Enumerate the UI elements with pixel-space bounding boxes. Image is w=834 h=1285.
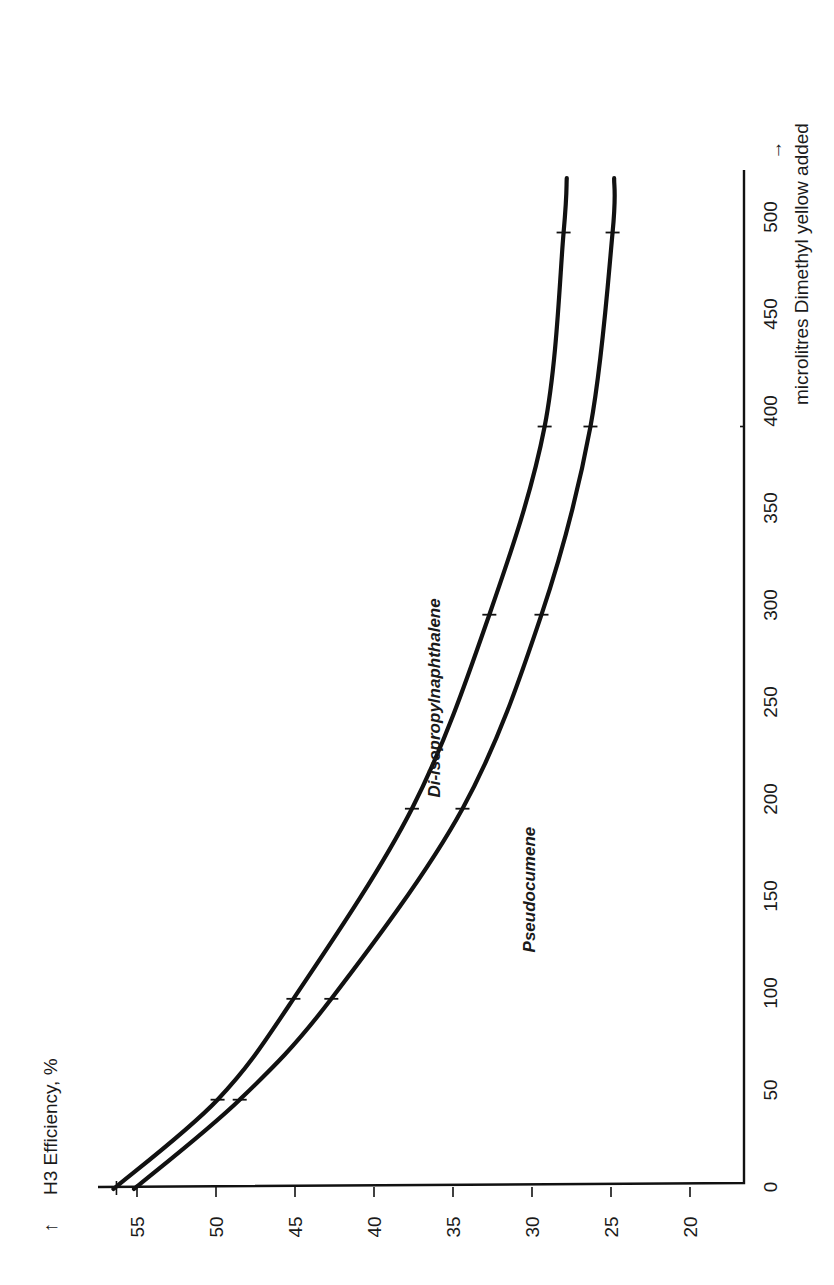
x-axis-arrow-icon: → bbox=[765, 141, 786, 160]
y-tick-label: 30 bbox=[522, 1216, 543, 1237]
x-tick-label: 400 bbox=[760, 395, 781, 427]
x-tick-label: 0 bbox=[760, 1182, 781, 1193]
x-tick-label: 300 bbox=[760, 589, 781, 621]
data-curves bbox=[113, 178, 614, 1189]
data-markers bbox=[211, 233, 620, 1100]
x-tick-label: 200 bbox=[760, 783, 781, 815]
series-label-dipn: Di-isopropylnaphthalene bbox=[425, 598, 444, 797]
y-tick-label: 55 bbox=[127, 1216, 148, 1237]
y-tick-label: 50 bbox=[206, 1216, 227, 1237]
x-tick-label: 250 bbox=[760, 686, 781, 718]
x-tick-label: 350 bbox=[760, 492, 781, 524]
axis-lines bbox=[98, 170, 744, 1187]
y-tick-label: 45 bbox=[285, 1216, 306, 1237]
axes bbox=[98, 170, 744, 1187]
y-tick-label: 20 bbox=[680, 1216, 701, 1237]
y-axis-arrow-icon: ↑ bbox=[40, 1223, 61, 1233]
labels: H3 Efficiency, % ↑ microlitres Dimethyl … bbox=[40, 123, 812, 1232]
y-tick-label: 25 bbox=[601, 1216, 622, 1237]
y-axis-title: H3 Efficiency, % bbox=[40, 1058, 61, 1195]
x-tick-label: 100 bbox=[760, 977, 781, 1009]
curve-pseudocumene bbox=[134, 178, 615, 1189]
x-tick-label: 50 bbox=[760, 1079, 781, 1100]
chart-canvas: 5550454035302520050100150200250300350400… bbox=[0, 0, 834, 1285]
series-label-pseudocumene: Pseudocumene bbox=[520, 827, 539, 953]
curve-dipn bbox=[113, 178, 566, 1189]
x-tick-label: 450 bbox=[760, 298, 781, 330]
x-tick-label: 150 bbox=[760, 880, 781, 912]
x-axis-title: microlitres Dimethyl yellow added bbox=[791, 123, 812, 405]
y-tick-label: 40 bbox=[364, 1216, 385, 1237]
y-tick-label: 35 bbox=[443, 1216, 464, 1237]
axis-ticks: 5550454035302520050100150200250300350400… bbox=[116, 201, 781, 1237]
x-tick-label: 500 bbox=[760, 201, 781, 233]
